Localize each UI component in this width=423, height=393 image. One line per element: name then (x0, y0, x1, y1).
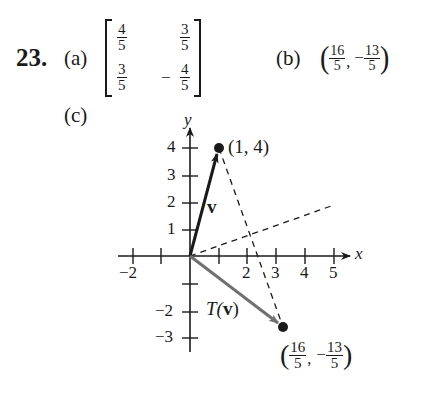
y-tick-label: 4 (167, 137, 176, 157)
x-tick-label: 3 (271, 263, 280, 283)
y-axis-label: y (184, 110, 192, 130)
point-2-label: ( 165 , − 135 ) (280, 336, 352, 374)
y-tick-label: 3 (167, 165, 176, 185)
vector-Tv-label: T(v) (206, 298, 239, 320)
x-tick-label: 4 (300, 263, 309, 283)
point-1-4 (214, 143, 224, 153)
point-16-5-neg13-5 (278, 322, 288, 332)
y-tick-label: 1 (167, 219, 176, 239)
y-tick-label: −2 (155, 301, 173, 321)
y-tick-label: −3 (155, 327, 173, 347)
x-tick-label: −2 (119, 263, 137, 283)
vector-v-label: v (207, 196, 217, 218)
point-1-label: (1, 4) (228, 136, 269, 158)
x-tick-label: 5 (329, 263, 338, 283)
x-axis-label: x (355, 244, 363, 264)
y-tick-label: 2 (167, 192, 176, 212)
x-tick-label: 2 (242, 263, 251, 283)
